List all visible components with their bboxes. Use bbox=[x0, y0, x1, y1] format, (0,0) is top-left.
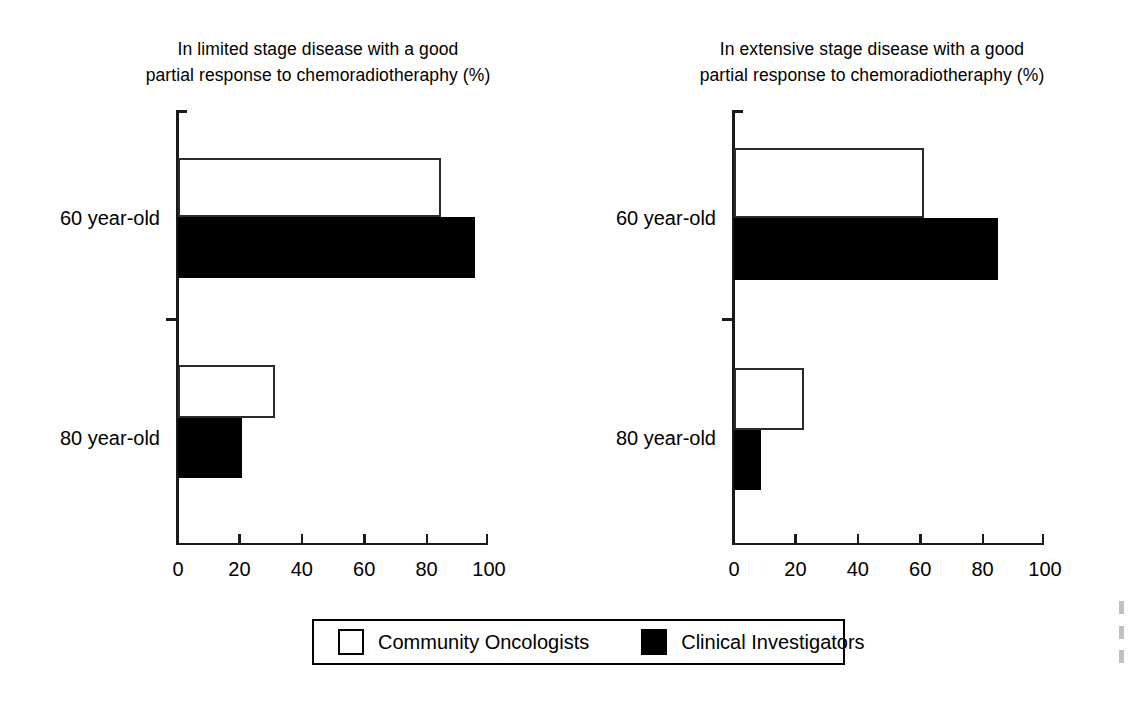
x-tick-right-0 bbox=[732, 534, 735, 545]
page-edge-artifact-1 bbox=[1119, 601, 1124, 614]
x-ticklabel-right-40: 40 bbox=[847, 558, 869, 581]
bar-right-60yo-community bbox=[734, 148, 924, 218]
x-ticklabel-left-40: 40 bbox=[291, 558, 313, 581]
plot-area-left: 0 20 40 60 80 100 bbox=[176, 110, 488, 545]
category-label-left-60yo: 60 year-old bbox=[60, 207, 160, 230]
x-axis-end-cap-right bbox=[1042, 534, 1045, 545]
x-tick-right-60 bbox=[919, 534, 922, 545]
y-axis-category-tick-right bbox=[722, 318, 733, 321]
legend-entry-clinical-investigators: Clinical Investigators bbox=[641, 629, 864, 655]
x-ticklabel-right-20: 20 bbox=[784, 558, 806, 581]
y-axis-top-cap-left bbox=[176, 110, 187, 113]
x-ticklabel-right-60: 60 bbox=[909, 558, 931, 581]
chart-title-left: In limited stage disease with a good par… bbox=[88, 36, 548, 88]
chart-panel-limited-stage: In limited stage disease with a good par… bbox=[0, 0, 564, 718]
bar-right-80yo-community bbox=[734, 368, 804, 430]
x-ticklabel-right-0: 0 bbox=[728, 558, 739, 581]
bar-right-80yo-clinical bbox=[734, 430, 761, 490]
legend-entry-community-oncologists: Community Oncologists bbox=[338, 629, 589, 655]
x-ticklabel-right-100: 100 bbox=[1028, 558, 1061, 581]
x-ticklabel-left-0: 0 bbox=[172, 558, 183, 581]
category-label-right-60yo: 60 year-old bbox=[616, 207, 716, 230]
category-label-right-80yo: 80 year-old bbox=[616, 427, 716, 450]
legend-label-community-oncologists: Community Oncologists bbox=[378, 631, 589, 654]
x-tick-right-40 bbox=[857, 534, 860, 545]
x-tick-left-80 bbox=[426, 534, 429, 545]
chart-legend: Community Oncologists Clinical Investiga… bbox=[312, 619, 845, 665]
plot-area-right: 0 20 40 60 80 100 bbox=[732, 110, 1044, 545]
x-ticklabel-left-80: 80 bbox=[415, 558, 437, 581]
category-label-left-80yo: 80 year-old bbox=[60, 427, 160, 450]
chart-title-right: In extensive stage disease with a good p… bbox=[642, 36, 1102, 88]
bar-left-80yo-community bbox=[178, 365, 275, 418]
x-axis-line-right bbox=[732, 543, 1044, 546]
x-axis-end-cap-left bbox=[486, 534, 489, 545]
x-tick-right-80 bbox=[982, 534, 985, 545]
chart-panel-extensive-stage: In extensive stage disease with a good p… bbox=[564, 0, 1128, 718]
x-tick-left-40 bbox=[301, 534, 304, 545]
y-axis-top-cap-right bbox=[732, 110, 743, 113]
y-axis-category-tick-left bbox=[166, 318, 177, 321]
x-ticklabel-right-80: 80 bbox=[971, 558, 993, 581]
x-tick-left-60 bbox=[363, 534, 366, 545]
legend-swatch-solid-square-icon bbox=[641, 629, 667, 655]
bar-left-80yo-clinical bbox=[178, 418, 242, 478]
page-edge-artifact-3 bbox=[1119, 650, 1124, 663]
x-ticklabel-left-100: 100 bbox=[472, 558, 505, 581]
bar-left-60yo-clinical bbox=[178, 217, 475, 278]
page-edge-artifact-2 bbox=[1119, 626, 1124, 639]
bar-left-60yo-community bbox=[178, 158, 441, 217]
x-tick-right-20 bbox=[794, 534, 797, 545]
x-ticklabel-left-60: 60 bbox=[353, 558, 375, 581]
x-tick-left-0 bbox=[176, 534, 179, 545]
legend-swatch-open-square-icon bbox=[338, 629, 364, 655]
x-ticklabel-left-20: 20 bbox=[228, 558, 250, 581]
bar-right-60yo-clinical bbox=[734, 218, 998, 280]
x-tick-left-20 bbox=[238, 534, 241, 545]
legend-label-clinical-investigators: Clinical Investigators bbox=[681, 631, 864, 654]
x-axis-line-left bbox=[176, 543, 488, 546]
